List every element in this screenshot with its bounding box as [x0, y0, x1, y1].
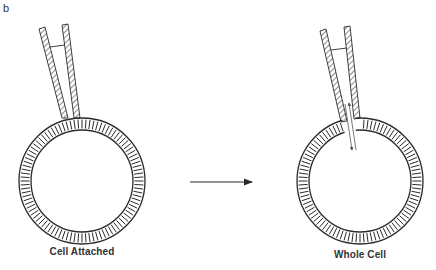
- caption-whole-cell: Whole Cell: [334, 249, 386, 260]
- left-pipette: [39, 24, 80, 118]
- right-cell-membrane: [297, 112, 423, 244]
- diagram-canvas: [0, 0, 436, 270]
- left-cell-membrane: [19, 118, 145, 244]
- left-pipette-meniscus: [50, 45, 65, 47]
- patch-clamp-diagram: b: [0, 0, 436, 270]
- right-pipette-meniscus: [331, 48, 347, 50]
- caption-cell-attached: Cell Attached: [50, 246, 115, 257]
